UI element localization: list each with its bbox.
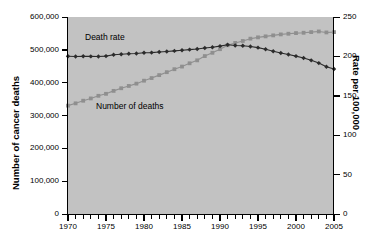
x-axis-tick [136, 215, 137, 219]
x-axis-tick [75, 215, 76, 219]
data-point-marker [188, 61, 192, 65]
data-point-marker [287, 32, 291, 36]
y-axis-left-title: Number of cancer deaths [10, 76, 21, 190]
data-point-marker [89, 97, 93, 101]
y-axis-right-tick [334, 95, 340, 96]
data-point-marker [309, 58, 313, 62]
data-point-marker [180, 48, 184, 52]
data-point-marker [279, 51, 283, 55]
x-axis-tick [159, 215, 160, 219]
x-axis-tick-label: 1995 [242, 223, 274, 231]
series-layer [0, 0, 373, 243]
x-axis-tick [273, 215, 274, 219]
data-point-marker [271, 33, 275, 37]
x-axis-tick-label: 2005 [318, 223, 350, 231]
y-axis-right-tick-label: 50 [343, 171, 371, 179]
data-point-marker [104, 92, 108, 96]
data-point-marker [180, 65, 184, 69]
y-axis-left-tick-label: 600,000 [0, 13, 59, 21]
data-point-marker [241, 39, 245, 43]
y-axis-left-tick-label: 300,000 [0, 112, 59, 120]
data-point-marker [150, 76, 154, 80]
y-axis-right-tick [334, 214, 340, 215]
x-axis-tick [280, 215, 281, 219]
data-point-marker [263, 47, 267, 51]
x-axis-tick [143, 215, 144, 221]
data-point-marker [142, 50, 146, 54]
cancer-deaths-dual-axis-chart: 0100,000200,000300,000400,000500,000600,… [0, 0, 373, 243]
y-axis-left-tick [62, 17, 68, 18]
x-axis-tick [257, 215, 258, 221]
x-axis-tick [166, 215, 167, 219]
data-point-marker [81, 54, 85, 58]
y-axis-right-tick [334, 135, 340, 136]
series-line-death-rate [68, 45, 334, 69]
x-axis-tick [128, 215, 129, 219]
data-point-marker [187, 47, 191, 51]
y-axis-right-tick [334, 17, 340, 18]
y-axis-right-tick [334, 174, 340, 175]
x-axis-tick [288, 215, 289, 219]
x-axis-tick [212, 215, 213, 219]
x-axis-tick-label: 1980 [128, 223, 160, 231]
x-axis-tick [219, 215, 220, 221]
x-axis-tick-label: 1985 [166, 223, 198, 231]
data-point-marker [271, 49, 275, 53]
data-point-marker [279, 33, 283, 37]
data-point-marker [249, 37, 253, 41]
data-point-marker [294, 31, 298, 35]
y-axis-left-tick [62, 115, 68, 116]
x-axis-tick [326, 215, 327, 219]
data-point-marker [172, 49, 176, 53]
x-axis-tick [333, 215, 334, 221]
x-axis-tick-label: 1970 [52, 223, 84, 231]
y-axis-left-tick-label: 500,000 [0, 46, 59, 54]
y-axis-left-tick [62, 49, 68, 50]
y-axis-left-tick [62, 82, 68, 83]
data-point-marker [210, 45, 214, 49]
data-point-marker [135, 82, 139, 86]
data-point-marker [81, 99, 85, 103]
x-axis-tick [235, 215, 236, 219]
data-point-marker [203, 54, 207, 58]
x-axis-tick [295, 215, 296, 221]
y-axis-left-tick [62, 148, 68, 149]
x-axis-tick-label: 2000 [280, 223, 312, 231]
series-annotation-death-rate: Death rate [85, 32, 125, 42]
data-point-marker [256, 45, 260, 49]
x-axis-tick [67, 215, 68, 221]
data-point-marker [149, 50, 153, 54]
y-axis-left-tick-label: 0 [0, 210, 59, 218]
data-point-marker [157, 73, 161, 77]
data-point-marker [317, 61, 321, 65]
data-point-marker [324, 65, 328, 69]
x-axis-tick [151, 215, 152, 219]
x-axis-tick [181, 215, 182, 221]
data-point-marker [211, 51, 215, 55]
data-point-marker [203, 46, 207, 50]
x-axis-tick [250, 215, 251, 219]
x-axis-tick [242, 215, 243, 219]
data-point-marker [264, 34, 268, 38]
x-axis-tick [83, 215, 84, 219]
data-point-marker [74, 101, 78, 105]
y-axis-right-line [333, 17, 334, 215]
y-axis-right-tick-label: 100 [343, 131, 371, 139]
data-point-marker [111, 53, 115, 57]
x-axis-tick-label: 1990 [204, 223, 236, 231]
data-point-marker [127, 52, 131, 56]
y-axis-left-tick [62, 181, 68, 182]
data-point-marker [325, 31, 329, 35]
y-axis-right-tick [334, 56, 340, 57]
data-point-marker [195, 58, 199, 62]
x-axis-tick [204, 215, 205, 219]
data-point-marker [317, 30, 321, 34]
data-point-marker [256, 35, 260, 39]
y-axis-left-tick-label: 200,000 [0, 144, 59, 152]
y-axis-right-tick-label: 250 [343, 13, 371, 21]
data-point-marker [119, 86, 123, 90]
x-axis-tick [105, 215, 106, 221]
data-point-marker [165, 70, 169, 74]
x-axis-tick [197, 215, 198, 219]
x-axis-tick [227, 215, 228, 219]
